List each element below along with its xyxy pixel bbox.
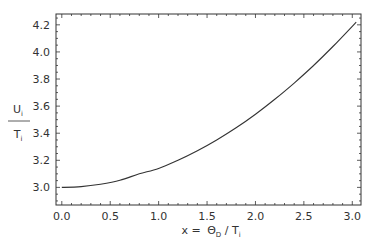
svg-text:Ti: Ti: [13, 128, 23, 143]
x-tick-label: 2.5: [295, 210, 313, 223]
svg-text:Ui: Ui: [13, 103, 23, 118]
x-tick-labels: 0.00.51.01.52.02.53.0: [53, 210, 361, 223]
y-tick-label: 4.0: [33, 46, 51, 59]
x-tick-label: 1.0: [150, 210, 168, 223]
x-tick-label: 0.0: [53, 210, 71, 223]
x-tick-label: 1.5: [198, 210, 216, 223]
x-tick-label: 3.0: [344, 210, 362, 223]
plot-frame: [56, 14, 361, 205]
data-line: [62, 22, 356, 187]
svg-text:x = ΘD / Ti: x = ΘD / Ti: [181, 224, 240, 239]
y-tick-label: 3.6: [33, 100, 51, 113]
axis-ticks: [56, 14, 361, 205]
y-tick-labels: 3.03.23.43.63.84.04.2: [33, 19, 51, 195]
y-axis-label: Ui Ti: [8, 103, 30, 143]
y-tick-label: 3.8: [33, 73, 51, 86]
y-tick-label: 3.2: [33, 154, 51, 167]
x-tick-label: 2.0: [247, 210, 265, 223]
chart: 0.00.51.01.52.02.53.0 3.03.23.43.63.84.0…: [0, 0, 381, 247]
y-tick-label: 3.4: [33, 127, 51, 140]
x-tick-label: 0.5: [101, 210, 119, 223]
y-tick-label: 3.0: [33, 181, 51, 194]
y-tick-label: 4.2: [33, 19, 51, 32]
x-axis-label: x = ΘD / Ti: [181, 224, 240, 239]
